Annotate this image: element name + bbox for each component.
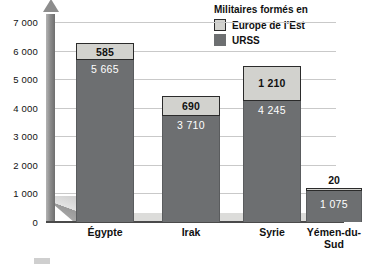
category-label-irak: Irak (162, 226, 220, 238)
bar-value-europe-de-lest-egypte: 585 (96, 46, 114, 58)
category-label-syrie: Syrie (243, 226, 301, 238)
ytick-label-7000: 7 000 (0, 17, 38, 28)
plot-area: 7 000 6 000 5 000 4 000 3 000 2 000 1 00… (44, 22, 340, 222)
bar-value-urss-yemen-du-sud: 1 075 (307, 198, 361, 210)
bar-group-irak[interactable]: 3 710 690 (162, 96, 220, 222)
ytick-label-5000: 5 000 (0, 74, 38, 85)
category-label-yemen-du-sud: Yémen-du-Sud (300, 226, 366, 250)
ytick-label-6000: 6 000 (0, 45, 38, 56)
bar-segment-urss-yemen-du-sud[interactable]: 1 075 (306, 191, 362, 222)
bar-segment-europe-de-lest-irak[interactable]: 690 (162, 96, 220, 116)
ytick-label-4000: 4 000 (0, 102, 38, 113)
bar-value-europe-de-lest-syrie: 1 210 (258, 77, 285, 89)
bar-value-europe-de-lest-irak: 690 (182, 100, 200, 112)
page-cutoff-mark (34, 258, 50, 264)
bar-segment-europe-de-lest-yemen-du-sud[interactable] (306, 188, 362, 192)
ytick-label-0: 0 (0, 217, 38, 228)
bar-value-urss-syrie: 4 245 (244, 104, 300, 116)
ytick-label-3000: 3 000 (0, 131, 38, 142)
ytick-label-1000: 1 000 (0, 188, 38, 199)
bar-value-urss-irak: 3 710 (163, 119, 219, 131)
bar-value-urss-egypte: 5 665 (77, 63, 133, 75)
bar-group-egypte[interactable]: 5 665 585 (76, 43, 134, 222)
ytick-label-2000: 2 000 (0, 159, 38, 170)
y-axis (46, 14, 55, 222)
bar-segment-urss-syrie[interactable]: 4 245 (243, 101, 301, 222)
gridline-7000 (50, 22, 336, 23)
category-label-egypte: Égypte (76, 226, 134, 238)
bar-segment-urss-egypte[interactable]: 5 665 (76, 60, 134, 222)
bar-segment-europe-de-lest-syrie[interactable]: 1 210 (243, 66, 301, 101)
y-axis-arrow-icon (43, 0, 59, 12)
bar-value-europe-de-lest-yemen-du-sud: 20 (306, 174, 362, 186)
bar-segment-europe-de-lest-egypte[interactable]: 585 (76, 43, 134, 60)
bar-group-syrie[interactable]: 4 245 1 210 (243, 66, 301, 222)
bar-segment-urss-irak[interactable]: 3 710 (162, 116, 220, 222)
bar-group-yemen-du-sud[interactable]: 1 075 20 (306, 188, 362, 222)
legend-title: Militaires formés en (214, 4, 342, 15)
